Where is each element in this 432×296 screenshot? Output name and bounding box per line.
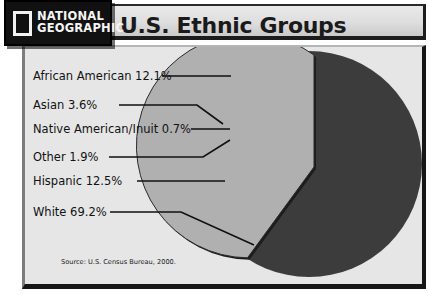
label-other: Other 1.9%: [33, 150, 99, 164]
infographic-root: African American 12.1% Asian 3.6% Native…: [0, 0, 432, 296]
national-geographic-logo: NATIONAL GEOGRAPHIC: [4, 0, 112, 46]
label-hispanic: Hispanic 12.5%: [33, 174, 122, 188]
label-asian: Asian 3.6%: [33, 98, 97, 112]
rectangle-frame-icon: [13, 11, 32, 36]
label-white: White 69.2%: [33, 205, 107, 219]
label-african-american: African American 12.1%: [33, 69, 172, 83]
source-note: Source: U.S. Census Bureau, 2000.: [61, 258, 176, 266]
pie-chart-graphic: [25, 47, 426, 289]
chart-panel: African American 12.1% Asian 3.6% Native…: [22, 45, 426, 289]
logo-line-geographic: GEOGRAPHIC: [37, 23, 124, 35]
page-title: U.S. Ethnic Groups: [120, 13, 346, 38]
label-native-american: Native American/Inuit 0.7%: [33, 122, 191, 136]
logo-wordmark: NATIONAL GEOGRAPHIC: [37, 11, 124, 34]
